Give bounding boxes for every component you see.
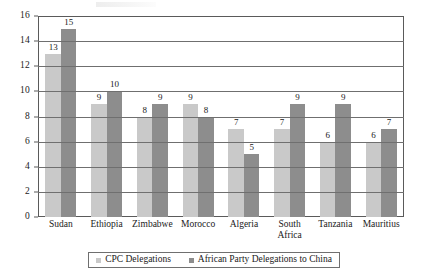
bar-value-label: 7 — [234, 118, 239, 127]
bar-value-label: 9 — [295, 93, 300, 102]
y-axis-tick-label: 0 — [25, 212, 30, 222]
x-axis-tick-label: Mauritius — [363, 219, 400, 230]
gridline — [38, 66, 404, 67]
bar-value-label: 9 — [188, 93, 193, 102]
bar: 9 — [152, 104, 168, 217]
x-axis-tick-label: Tanzania — [318, 219, 352, 230]
legend-item[interactable]: CPC Delegations — [96, 255, 171, 265]
bar: 9 — [335, 104, 351, 217]
bar-value-label: 9 — [158, 93, 163, 102]
gridline — [38, 142, 404, 143]
bar-value-label: 9 — [97, 93, 102, 102]
bar: 6 — [320, 142, 336, 217]
y-axis-tick-label: 12 — [20, 62, 30, 72]
bar-value-label: 7 — [280, 118, 285, 127]
dark-gray-swatch — [189, 258, 194, 263]
bar: 5 — [244, 154, 260, 217]
bar-value-label: 13 — [49, 43, 58, 52]
x-axis-tick-label: Ethiopia — [91, 219, 123, 230]
legend-item[interactable]: African Party Delegations to China — [189, 255, 332, 265]
bar-value-label: 9 — [341, 93, 346, 102]
gridline — [38, 192, 404, 193]
bar-value-label: 15 — [64, 18, 73, 27]
bar: 9 — [183, 104, 199, 217]
chart-legend: CPC DelegationsAfrican Party Delegations… — [88, 252, 340, 268]
y-axis: 0246810121416 — [0, 16, 38, 217]
gridline — [38, 91, 404, 92]
y-axis-tick-label: 14 — [20, 36, 30, 46]
y-axis-tick-label: 6 — [25, 137, 30, 147]
bar-value-label: 6 — [325, 131, 330, 140]
gridline — [38, 41, 404, 42]
bar: 6 — [366, 142, 382, 217]
legend-item-label: African Party Delegations to China — [198, 255, 332, 265]
gridline — [38, 167, 404, 168]
y-axis-tick-label: 10 — [20, 87, 30, 97]
bar-value-label: 8 — [142, 106, 147, 115]
bar: 9 — [91, 104, 107, 217]
x-axis-tick-label: Algeria — [230, 219, 259, 230]
bar-value-label: 7 — [387, 118, 392, 127]
x-axis-tick-label: Sudan — [49, 219, 73, 230]
scan-artifact — [96, 2, 156, 7]
light-gray-swatch — [96, 258, 101, 263]
x-axis-tick-label: Zimbabwe — [132, 219, 173, 230]
x-axis-tick-label: South Africa — [277, 219, 301, 241]
grouped-bar-chart: 0246810121416 1315910899875796967 SudanE… — [0, 0, 427, 279]
x-axis-tick-label: Morocco — [181, 219, 215, 230]
bar-value-label: 6 — [371, 131, 376, 140]
y-axis-tick-label: 8 — [25, 112, 30, 122]
bar-value-label: 5 — [249, 143, 254, 152]
gridline — [38, 117, 404, 118]
legend-item-label: CPC Delegations — [105, 255, 171, 265]
x-axis: SudanEthiopiaZimbabweMoroccoAlgeriaSouth… — [38, 219, 404, 253]
bar-value-label: 10 — [110, 80, 119, 89]
bar: 15 — [61, 29, 77, 217]
bar-value-label: 8 — [204, 106, 209, 115]
y-axis-tick-label: 16 — [20, 11, 30, 21]
y-axis-tick-label: 2 — [25, 187, 30, 197]
bar: 10 — [107, 91, 123, 217]
bar: 9 — [290, 104, 306, 217]
y-axis-tick-label: 4 — [25, 162, 30, 172]
plot-area: 1315910899875796967 — [38, 16, 404, 217]
